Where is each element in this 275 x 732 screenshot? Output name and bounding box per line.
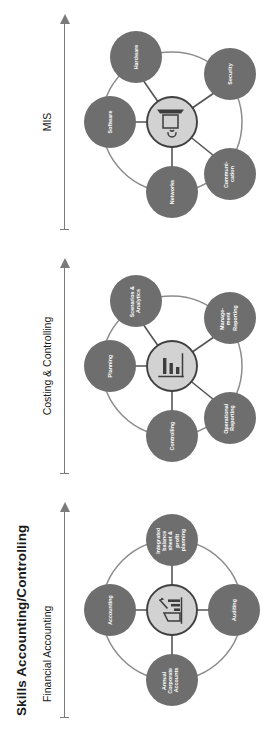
node-label-auditing: Auditing [231,599,237,621]
node-label-scenarios-and-analytics: Scenarios & Analytics [129,285,141,318]
cluster-title-costing-and-controlling: Costing & Controlling [41,244,53,488]
node-label-operational-reporting: Operational Reporting [223,402,235,434]
node-label-networks: Networks [169,180,175,204]
node-label-controlling: Controlling [169,422,175,451]
axis-arrowhead-icon [60,502,70,512]
graphic-costing-and-controlling: Planning Scenarios & Analytics Manage- m… [72,256,272,476]
node-label-integrated-balance-sheet-profit-planning: Integrated balance sheet & profit planni… [155,526,186,554]
node-label-security: Security [227,63,233,84]
cluster-title-financial-accounting: Financial Accounting [41,488,53,732]
cluster-title-mis: MIS [41,0,53,244]
cluster-financial-accounting: Financial Accounting [0,488,275,732]
node-label-accounting: Accounting [107,595,113,625]
axis-shaft [64,264,65,474]
hub-mis[interactable] [147,97,197,147]
cluster-mis: MIS Software [0,0,275,244]
axis-arrow-financial-accounting [59,502,71,718]
axis-arrowhead-icon [60,258,70,268]
hub-financial-accounting[interactable] [147,585,197,635]
skills-poster: Skills Accounting/Controlling Financial … [0,0,275,732]
node-label-annual-corporate-accounts: Annual Corporate Accounts [161,666,179,693]
cluster-costing-and-controlling: Costing & Controlling Planning [0,244,275,488]
diagram-stage: Skills Accounting/Controlling Financial … [0,0,275,732]
node-label-software: Software [107,111,113,134]
graphic-mis: Software Hardware Security Communi- cati… [72,12,272,232]
axis-arrow-costing-and-controlling [59,258,71,474]
axis-shaft [64,508,65,718]
node-label-planning: Planning [107,355,113,378]
axis-arrow-mis [59,14,71,230]
graphic-financial-accounting: Accounting Integrated balance sheet & pr… [72,500,272,720]
axis-arrowhead-icon [60,14,70,24]
axis-shaft [64,20,65,230]
node-label-hardware: Hardware [133,45,139,70]
